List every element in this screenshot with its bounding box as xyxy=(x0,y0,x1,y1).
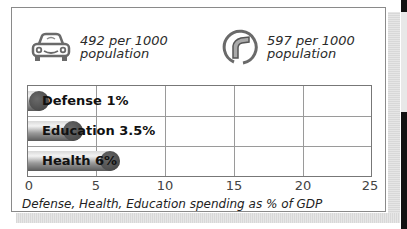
road-stat-text: 597 per 1000 population xyxy=(267,34,355,60)
car-icon xyxy=(30,32,72,62)
chart-caption: Defense, Health, Education spending as %… xyxy=(22,197,322,211)
gridline-row-1 xyxy=(28,116,371,117)
bar-label-defense: Defense 1% xyxy=(42,93,129,108)
car-stat: 492 per 1000 population xyxy=(30,32,168,62)
x-tick-10: 10 xyxy=(157,178,174,193)
car-stat-unit: population xyxy=(80,46,149,61)
x-tick-20: 20 xyxy=(295,178,312,193)
page-edge xyxy=(401,0,407,229)
x-tick-0: 0 xyxy=(25,178,33,193)
road-stat: 597 per 1000 population xyxy=(221,28,355,66)
x-tick-5: 5 xyxy=(92,178,100,193)
gridline-x-20 xyxy=(303,86,304,176)
gridline-x-10 xyxy=(165,86,166,176)
bar-label-health: Health 6% xyxy=(42,153,117,168)
bar-label-education: Education 3.5% xyxy=(42,123,155,138)
gridline-row-2 xyxy=(28,146,371,147)
road-stat-unit: population xyxy=(267,46,336,61)
card-shadow-right xyxy=(388,12,400,222)
x-tick-15: 15 xyxy=(226,178,243,193)
bar-chart-plot: Defense 1% Education 3.5% Health 6% xyxy=(27,85,372,177)
x-tick-25: 25 xyxy=(362,178,379,193)
car-stat-text: 492 per 1000 population xyxy=(80,34,168,60)
gridline-x-15 xyxy=(234,86,235,176)
card-shadow-bottom xyxy=(16,213,400,223)
road-sign-icon xyxy=(221,28,259,66)
